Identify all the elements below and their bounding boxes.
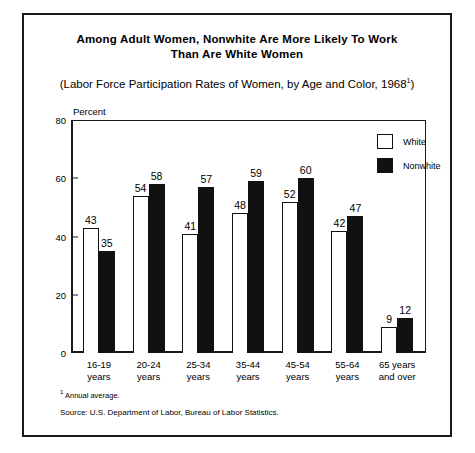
plot-wrapper: 020406080 433516-19years545820-24years41… [71,120,426,353]
title-line-1: Among Adult Women, Nonwhite Are More Lik… [24,32,450,47]
x-axis-category-label: 25-34years [186,359,210,382]
bar-value-label: 57 [200,173,212,185]
bar-value-label: 59 [250,167,262,179]
x-label-line: 45-54 [286,359,310,371]
bar-column: 52 [282,120,298,353]
bar-white[interactable] [182,234,198,353]
bar-white[interactable] [331,231,347,353]
subtitle-text: (Labor Force Participation Rates of Wome… [60,78,407,90]
legend-item[interactable]: Nonwhite [377,158,441,173]
x-label-line: 16-19 [87,359,111,371]
subtitle-close-paren: ) [410,78,414,90]
bar-column: 41 [182,120,198,353]
x-label-line: 20-24 [136,359,160,371]
footnote-source: Source: U.S. Department of Labor, Bureau… [60,408,279,417]
y-tick-label: 0 [61,348,66,359]
bar-column: 57 [198,120,214,353]
bar-column: 59 [248,120,264,353]
x-axis-category-label: 20-24years [136,359,160,382]
y-tick-mark [71,178,78,179]
bar-value-label: 60 [300,164,312,176]
bar-value-label: 42 [334,217,346,229]
footnote-annual: 1 Annual average. [60,389,120,400]
y-tick-mark [71,294,78,295]
bar-group: 424755-64years [331,120,363,353]
bar-group: 415725-34years [182,120,214,353]
title-line-2: Than Are White Women [24,47,450,62]
x-label-line: years [286,371,310,383]
bar-column: 48 [232,120,248,353]
bar-nonwhite[interactable] [248,181,264,353]
x-label-line: and over [379,371,416,383]
x-label-line: years [186,371,210,383]
y-axis-label: Percent [73,106,106,117]
x-axis-category-label: 45-54years [286,359,310,382]
footnote-annual-text: Annual average. [65,391,120,400]
bar-value-label: 12 [399,304,411,316]
x-label-line: 55-64 [335,359,359,371]
bar-value-label: 54 [135,182,147,194]
bar-column: 58 [149,120,165,353]
x-label-line: 25-34 [186,359,210,371]
x-axis-category-label: 35-44years [236,359,260,382]
x-axis-category-label: 65 yearsand over [379,359,416,382]
bar-nonwhite[interactable] [298,178,314,353]
bar-group: 485935-44years [232,120,264,353]
legend-item[interactable]: White [377,134,441,149]
bar-column: 35 [99,120,115,353]
chart-subtitle: (Labor Force Participation Rates of Wome… [24,74,450,91]
chart-figure: Among Adult Women, Nonwhite Are More Lik… [22,13,452,437]
y-tick-label: 80 [55,115,66,126]
x-label-line: years [136,371,160,383]
y-tick-label: 40 [55,231,66,242]
bar-white[interactable] [232,213,248,353]
bar-column: 43 [83,120,99,353]
bar-column: 54 [133,120,149,353]
bar-nonwhite[interactable] [149,184,165,353]
footnote-marker: 1 [60,389,63,395]
bar-nonwhite[interactable] [99,251,115,353]
chart-title: Among Adult Women, Nonwhite Are More Lik… [24,32,450,62]
x-label-line: years [335,371,359,383]
bar-nonwhite[interactable] [198,187,214,353]
bar-group: 545820-24years [133,120,165,353]
bar-column: 42 [331,120,347,353]
bar-white[interactable] [381,327,397,353]
bar-value-label: 43 [85,214,97,226]
bar-white[interactable] [133,196,149,353]
bar-value-label: 52 [284,188,296,200]
y-tick-mark [71,236,78,237]
bar-column: 47 [347,120,363,353]
bar-value-label: 48 [234,199,246,211]
bar-nonwhite[interactable] [397,318,413,353]
bar-value-label: 47 [350,202,362,214]
bar-column: 60 [298,120,314,353]
x-label-line: 65 years [379,359,416,371]
bar-white[interactable] [83,228,99,353]
bar-value-label: 9 [386,313,392,325]
x-axis-category-label: 16-19years [87,359,111,382]
x-label-line: years [236,371,260,383]
x-axis-category-label: 55-64years [335,359,359,382]
chart-legend: WhiteNonwhite [377,134,441,182]
x-label-line: 35-44 [236,359,260,371]
y-tick-label: 60 [55,173,66,184]
bar-value-label: 58 [151,170,163,182]
legend-label: White [403,137,426,147]
bar-nonwhite[interactable] [347,216,363,353]
y-tick-label: 20 [55,289,66,300]
legend-swatch-white [377,134,393,149]
bar-group: 433516-19years [83,120,115,353]
bar-value-label: 35 [101,237,113,249]
bar-white[interactable] [282,202,298,353]
legend-label: Nonwhite [403,161,441,171]
bar-group: 526045-54years [282,120,314,353]
bar-value-label: 41 [184,220,196,232]
legend-swatch-nonwhite [377,158,393,173]
x-label-line: years [87,371,111,383]
